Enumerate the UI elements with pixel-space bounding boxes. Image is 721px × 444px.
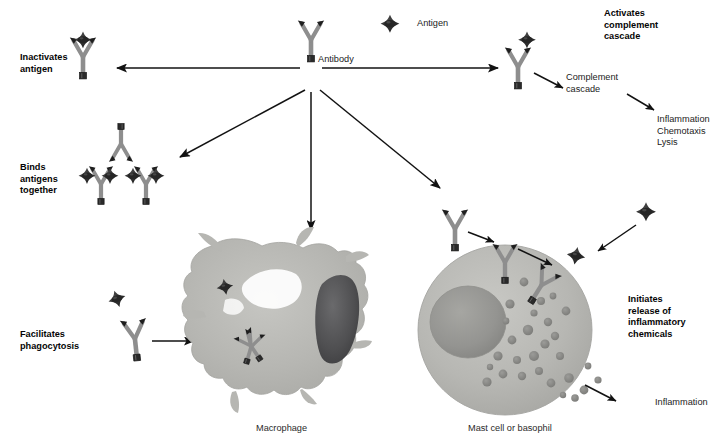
label-facilitates-phagocytosis: Facilitates phagocytosis bbox=[20, 329, 79, 352]
diagram-canvas: Inactivates antigen Binds antigens toget… bbox=[0, 0, 721, 444]
label-cascade-outcomes: Inflammation Chemotaxis Lysis bbox=[657, 114, 710, 149]
inactivated-antigen-complex bbox=[70, 31, 96, 79]
label-inflammation: Inflammation bbox=[655, 397, 708, 409]
macrophage-cell bbox=[182, 227, 372, 413]
caption-macrophage: Macrophage bbox=[256, 423, 307, 435]
arrow-to-cascade bbox=[534, 73, 563, 88]
free-antibody-mastcell bbox=[442, 209, 468, 251]
agglutination-lattice bbox=[79, 124, 165, 205]
free-antigen-mastcell bbox=[636, 202, 656, 221]
arrow-to-inflammation bbox=[585, 385, 616, 401]
legend-antigen-icon bbox=[381, 15, 400, 33]
label-inactivates-antigen: Inactivates antigen bbox=[20, 52, 68, 75]
opsonized-antigen-complex bbox=[106, 288, 150, 362]
label-antigen-legend: Antigen bbox=[417, 18, 448, 30]
arrow-antigen-to-receptor bbox=[598, 225, 636, 251]
label-initiates-release: Initiates release of inflammatory chemic… bbox=[628, 294, 686, 340]
diagram-svg bbox=[0, 0, 721, 444]
caption-mast-cell: Mast cell or basophil bbox=[468, 423, 552, 435]
label-activates-complement: Activates complement cascade bbox=[604, 8, 658, 43]
label-complement-cascade: Complement cascade bbox=[566, 72, 618, 95]
arrow-to-outcomes bbox=[627, 94, 654, 110]
arrow-group bbox=[117, 68, 498, 230]
arrow-to-agglutination bbox=[180, 90, 305, 157]
mast-cell bbox=[418, 244, 602, 415]
label-binds-antigens: Binds antigens together bbox=[20, 162, 58, 197]
arrow-to-mastcell bbox=[320, 90, 440, 188]
arrow-antibody-to-membrane bbox=[468, 232, 494, 242]
complement-antibody-complex bbox=[505, 31, 536, 89]
label-antibody-center: Antibody bbox=[318, 54, 354, 66]
